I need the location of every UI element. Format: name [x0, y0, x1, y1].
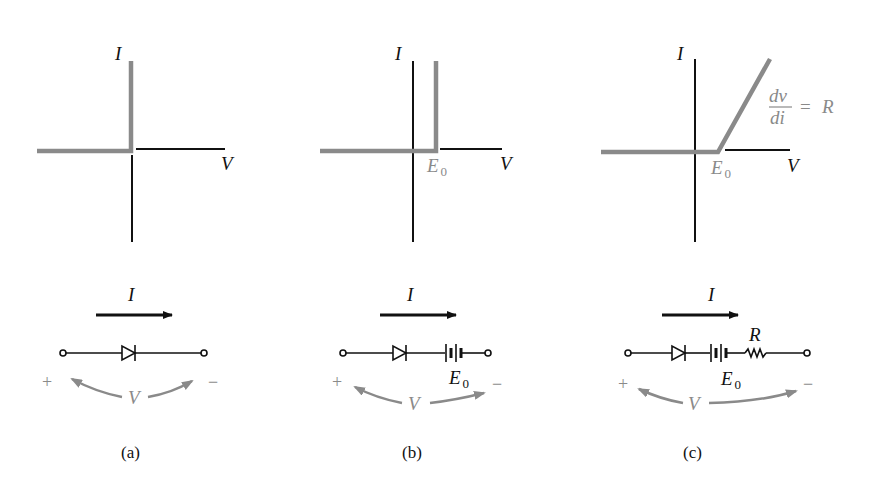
i-axis-label: I [676, 43, 685, 64]
iv-graph-c: I V E0 dv di = R [601, 43, 834, 242]
terminal-left [340, 350, 346, 356]
circuit-c: I R E0 + − V [618, 284, 813, 414]
svg-text:=: = [800, 96, 811, 117]
offset-characteristic [320, 61, 436, 151]
panel-b: I V E0 I E0 + − [320, 43, 514, 462]
battery-symbol [711, 344, 726, 362]
current-label: I [406, 284, 415, 305]
v-axis-label: V [500, 153, 514, 174]
voltage-label: V [688, 393, 702, 414]
diode-symbol [122, 345, 135, 361]
current-label: I [127, 284, 136, 305]
plus-sign: + [42, 372, 52, 392]
minus-sign: − [803, 374, 813, 394]
plus-sign: + [618, 374, 628, 394]
terminal-right [485, 350, 491, 356]
minus-sign: − [208, 372, 218, 392]
voltage-arrow-left [355, 387, 402, 403]
v-axis-label: V [787, 155, 801, 176]
diode-symbol [393, 345, 406, 361]
svg-text:dv: dv [769, 85, 788, 106]
knee-label: E0 [426, 155, 447, 179]
knee-label: E0 [710, 157, 731, 181]
battery-label: E0 [720, 368, 741, 392]
svg-text:di: di [770, 107, 785, 128]
circuit-a: I + − V [42, 284, 218, 408]
v-axis-label: V [221, 153, 235, 174]
voltage-arrow-right [148, 381, 192, 397]
i-axis-label: I [394, 43, 403, 64]
terminal-left [60, 350, 66, 356]
diode-models-figure: I V I + − V (a) I V [0, 0, 872, 488]
resistor-symbol [745, 349, 766, 357]
voltage-label: V [408, 393, 422, 414]
voltage-arrow-left [639, 389, 683, 403]
voltage-arrow-right [709, 391, 796, 403]
resistor-label: R [748, 324, 761, 345]
iv-graph-b: I V E0 [320, 43, 514, 242]
caption-c: (c) [683, 443, 702, 462]
diode-symbol [672, 345, 685, 361]
ideal-characteristic [37, 61, 131, 151]
terminal-right [804, 350, 810, 356]
voltage-arrow-left [72, 379, 122, 397]
caption-a: (a) [121, 443, 140, 462]
iv-graph-a: I V [37, 43, 235, 242]
current-label: I [707, 284, 716, 305]
battery-symbol [446, 344, 461, 362]
slope-annotation: dv di = R [769, 85, 834, 128]
caption-b: (b) [402, 443, 422, 462]
panel-a: I V I + − V (a) [37, 43, 235, 462]
voltage-arrow-right [430, 393, 484, 403]
svg-text:R: R [821, 96, 834, 117]
plus-sign: + [332, 372, 342, 392]
terminal-right [201, 350, 207, 356]
battery-label: E0 [448, 367, 469, 391]
circuit-b: I E0 + − V [332, 284, 502, 414]
voltage-label: V [128, 387, 142, 408]
panel-c: I V E0 dv di = R I [601, 43, 834, 462]
piecewise-linear-characteristic [601, 59, 770, 152]
terminal-left [625, 350, 631, 356]
minus-sign: − [492, 374, 502, 394]
i-axis-label: I [114, 43, 123, 64]
